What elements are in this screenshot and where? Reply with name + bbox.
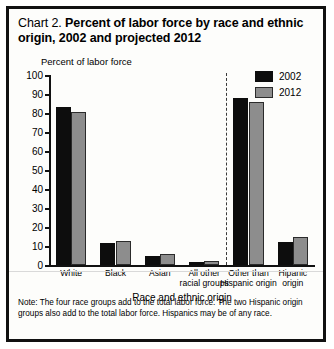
bar-2002-0 [56,107,71,265]
y-axis-tick-mark [45,246,49,248]
plot-area: 0102030405060708090100 WhiteBlackAsianAl… [49,75,315,265]
y-axis-tick-mark [45,170,49,172]
bar-2002-3 [189,262,204,265]
y-axis-tick-mark [45,132,49,134]
y-axis-tick-label: 50 [32,165,43,176]
y-axis-tick-label: 100 [26,70,43,81]
y-axis-tick-label: 20 [32,222,43,233]
bar-2002-2 [145,256,160,265]
bar-2012-5 [293,237,308,266]
x-axis-line [49,265,315,267]
bar-2012-2 [160,254,175,265]
y-axis-tick-label: 80 [32,108,43,119]
y-axis-tick-mark [45,189,49,191]
bar-2002-1 [100,243,115,265]
y-axis-label: Percent of labor force [41,56,132,67]
note-separator [9,271,323,272]
bar-2002-4 [233,98,248,265]
y-axis-tick-mark [45,151,49,153]
y-axis-tick-label: 60 [32,146,43,157]
chart-note: Note: The four race groups add to the to… [18,297,318,319]
y-axis-tick-mark [45,227,49,229]
y-axis-tick-mark [45,94,49,96]
bar-2012-0 [71,112,86,265]
y-axis-tick-label: 70 [32,127,43,138]
group-divider-line [226,73,227,265]
y-axis-tick-mark [45,265,49,267]
note-label: Note: [18,298,38,307]
note-body: The four race groups add to the total la… [18,298,303,318]
chart-figure: Chart 2. Percent of labor force by race … [6,6,326,342]
y-axis-tick-label: 40 [32,184,43,195]
bar-2012-3 [204,261,219,265]
chart-title-lead: Chart 2. [18,16,62,30]
y-axis-tick-label: 30 [32,203,43,214]
bar-2002-5 [278,242,293,265]
y-axis-tick-mark [45,75,49,77]
y-axis-tick-mark [45,208,49,210]
bar-2012-4 [249,102,264,265]
y-axis-tick-mark [45,113,49,115]
bar-2012-1 [116,241,131,265]
y-axis-tick-label: 10 [32,241,43,252]
y-axis-line [49,75,51,265]
chart-title: Chart 2. Percent of labor force by race … [18,16,318,46]
y-axis-tick-label: 90 [32,89,43,100]
